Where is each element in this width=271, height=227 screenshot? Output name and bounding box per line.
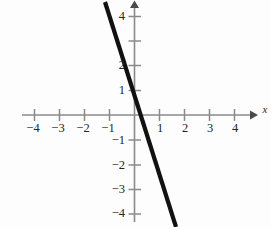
x-tick-label-2: 2 — [182, 121, 188, 135]
x-tick-label-3: 3 — [207, 121, 213, 135]
x-tick-label--4: −4 — [26, 121, 40, 135]
y-tick-label-1: 1 — [119, 83, 125, 97]
coordinate-plane-figure: −4 −3 −2 −1 1 2 3 4 4 2 1 −1 −2 −3 −4 x — [0, 0, 271, 227]
x-axis-label: x — [262, 103, 268, 115]
x-tick-label-4: 4 — [232, 121, 239, 135]
x-tick-label-1: 1 — [157, 121, 163, 135]
y-tick-label-2: 2 — [119, 58, 125, 72]
x-axis-arrow-icon — [250, 111, 258, 120]
y-tick-label--3: −3 — [112, 182, 125, 196]
y-tick-label-4: 4 — [119, 9, 126, 23]
graph-svg: −4 −3 −2 −1 1 2 3 4 4 2 1 −1 −2 −3 −4 x — [0, 0, 271, 227]
y-tick-label--2: −2 — [112, 158, 125, 172]
y-axis-arrow-icon — [130, 1, 139, 9]
x-tick-label--3: −3 — [51, 121, 64, 135]
y-tick-label--1: −1 — [112, 133, 125, 147]
y-tick-label--4: −4 — [112, 206, 126, 220]
x-tick-label--2: −2 — [76, 121, 89, 135]
